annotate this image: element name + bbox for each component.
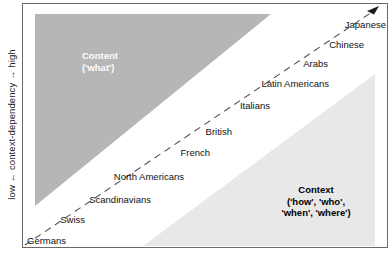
context-triangle [143, 74, 375, 246]
y-axis-label-text: low ← context-dependency → high [6, 49, 17, 199]
y-axis-label: low ← context-dependency → high [0, 0, 22, 248]
high-low-context-culture-diagram: low ← context-dependency → high Content … [0, 0, 391, 261]
plot-area: Content ('what') Context ('how', 'who', … [22, 3, 388, 248]
content-triangle [35, 14, 271, 206]
plot-graphics [23, 4, 387, 247]
arrow-up-right-icon [367, 6, 379, 15]
